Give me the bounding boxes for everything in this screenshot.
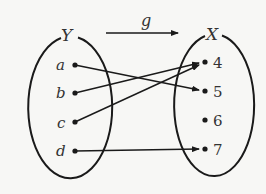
function-mapping-diagram: g Y a b c d X 4 5 6 7 xyxy=(0,0,266,194)
set-x: X 4 5 6 7 xyxy=(174,24,254,176)
dot-7 xyxy=(202,146,207,151)
element-b: b xyxy=(56,84,66,102)
mapping-arrows xyxy=(75,63,199,151)
element-c: c xyxy=(57,114,66,132)
element-d: d xyxy=(56,142,66,160)
function-arrow: g xyxy=(106,11,178,33)
dot-4 xyxy=(202,59,207,64)
set-x-label: X xyxy=(204,24,219,44)
function-label: g xyxy=(141,11,151,30)
arrow-b-to-4 xyxy=(75,63,199,93)
element-7: 7 xyxy=(213,141,223,159)
arrow-c-to-4 xyxy=(75,65,199,122)
element-a: a xyxy=(56,56,65,74)
element-4: 4 xyxy=(213,54,223,72)
arrow-d-to-7 xyxy=(75,149,199,151)
element-6: 6 xyxy=(213,112,223,130)
set-y-ellipse xyxy=(28,38,112,179)
element-5: 5 xyxy=(213,83,223,101)
dot-6 xyxy=(202,117,207,122)
dot-5 xyxy=(202,88,207,93)
set-y: Y a b c d xyxy=(28,25,112,178)
set-y-label: Y xyxy=(61,25,74,45)
